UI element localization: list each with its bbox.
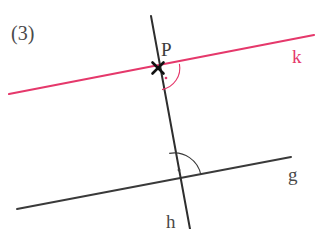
figure-canvas bbox=[0, 0, 322, 229]
geometry-figure: (3) P k g h bbox=[0, 0, 322, 229]
line-g-label: g bbox=[288, 165, 298, 184]
line-k-label: k bbox=[292, 47, 302, 66]
right-angle-arc-at-gh bbox=[169, 153, 201, 175]
line-h-label: h bbox=[166, 212, 176, 229]
line-g bbox=[17, 157, 291, 209]
right-angle-dot-at-gh bbox=[178, 169, 181, 172]
point-p-label: P bbox=[161, 40, 172, 59]
right-angle-dot-at-p bbox=[165, 77, 168, 80]
figure-index-label: (3) bbox=[11, 23, 34, 43]
